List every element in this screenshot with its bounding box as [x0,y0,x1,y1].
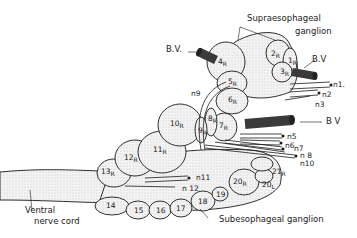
nerve-n2 [290,90,318,97]
label-ventral: Ventral [25,206,55,215]
label-bv-left: B.V. [166,45,182,54]
label-nerve-cord: nerve cord [34,217,80,226]
lobe-label-4: 4R [218,58,227,67]
nerve-label-n1: n1. [333,81,345,89]
nerve-label-n3: n3 [315,101,325,109]
nerve-label-n11: n11 [196,174,210,182]
nerve-n1 [290,82,330,89]
label-subesophageal: Subesophageal ganglion [219,215,324,224]
lobe-label-5: 5R [228,78,237,87]
lobe-label-2: 2R [271,50,280,59]
nerve-label-n2: n2 [322,91,332,99]
nerve-label-n9: n9 [191,90,201,98]
lobe-label-16: 16 [156,207,166,215]
lobe-label-15: 15 [134,207,144,215]
nerve-label-n10: n10 [300,160,314,168]
label-bv-upper-right: B.V [312,55,326,64]
lobe-21R [251,157,273,171]
lobe-label-7: 7R [219,122,228,131]
lobe-label-12: 12R [124,154,138,163]
label-bv-mid-right: B V [326,117,340,126]
lobe-label-14: 14 [106,202,116,210]
nerve-label-n5: n5 [287,133,297,141]
lobe-label-10: 10R [170,120,184,129]
label-ganglion: ganglion [295,27,332,36]
lobe-label-3: 3R [280,68,289,77]
lobe-label-11: 11R [153,146,167,155]
lobe-label-8: 8R [208,115,217,124]
lobe-label-1: 1R [288,57,297,66]
lobe-label-17: 17 [176,205,186,213]
nerve-n5 [240,134,282,138]
lobe-label-21: 21R [272,168,286,177]
lobe-label-18: 18 [198,198,208,206]
lobe-label-6: 6R [228,96,237,105]
blood-vessel-upper-right [292,72,315,76]
lobe-label-20L: 20L [262,181,275,190]
lobe-label-19: 19 [216,191,226,199]
lobe-label-20R: 20R [233,178,247,187]
blood-vessel-mid-right [245,120,292,124]
lobe-label-9: 9R [198,127,207,136]
nerve-label-n12: n 12 [182,185,199,193]
lobe-label-13: 13R [101,168,115,177]
ganglion-diagram: Supraesophageal ganglion B.V. B.V B V Ve… [0,0,357,238]
label-supraesophageal: Supraesophageal [247,14,321,23]
